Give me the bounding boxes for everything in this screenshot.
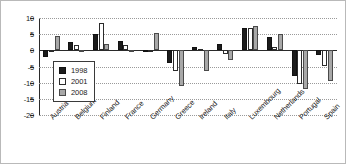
bar-germany-1998 <box>143 50 148 52</box>
bar-italy-1998 <box>217 44 222 50</box>
bar-chart-figure: 1050-5-10-15-20 AustriaBelgiumFinlandFra… <box>0 0 346 164</box>
bar-greece-2001 <box>173 50 178 71</box>
bar-group <box>238 18 263 115</box>
bar-group <box>138 18 163 115</box>
bar-belgium-1998 <box>68 42 73 50</box>
bar-luxembourg-2008 <box>253 26 258 50</box>
bar-belgium-2008 <box>79 50 84 52</box>
bar-ireland-2001 <box>198 49 203 51</box>
bar-portugal-1998 <box>292 50 297 76</box>
bar-finland-2001 <box>99 23 104 50</box>
bar-finland-1998 <box>93 34 98 50</box>
bar-finland-2008 <box>104 44 109 50</box>
bar-luxembourg-1998 <box>242 28 247 51</box>
bar-france-2001 <box>123 45 128 50</box>
bar-netherlands-2008 <box>278 34 283 50</box>
bar-austria-1998 <box>43 50 48 56</box>
bar-portugal-2001 <box>297 50 302 84</box>
bar-austria-2008 <box>55 36 60 51</box>
bar-france-2008 <box>129 50 134 52</box>
y-axis-labels: 1050-5-10-15-20 <box>1 18 34 115</box>
y-axis-tick-mark <box>30 67 34 68</box>
bar-luxembourg-2001 <box>248 28 253 51</box>
legend-swatch-2001-icon <box>59 78 66 85</box>
bar-ireland-2008 <box>204 50 209 71</box>
bar-italy-2008 <box>228 50 233 60</box>
bar-greece-1998 <box>167 50 172 63</box>
bar-greece-2008 <box>179 50 184 86</box>
y-axis-tick-mark <box>30 115 34 116</box>
y-axis-tick-mark <box>30 99 34 100</box>
legend-label: 2008 <box>71 88 87 97</box>
legend-item: 2001 <box>59 76 87 87</box>
bar-ireland-1998 <box>192 47 197 50</box>
legend-swatch-1998-icon <box>59 67 66 74</box>
bar-group <box>213 18 238 115</box>
bar-portugal-2008 <box>303 50 308 89</box>
bar-spain-2008 <box>328 50 333 81</box>
bar-france-1998 <box>118 41 123 51</box>
y-axis-tick-mark <box>30 34 34 35</box>
bar-belgium-2001 <box>74 45 79 50</box>
y-axis-tick-mark <box>30 50 34 51</box>
bar-germany-2001 <box>148 50 153 52</box>
legend-swatch-2008-icon <box>59 89 66 96</box>
legend-item: 2008 <box>59 87 87 98</box>
bar-netherlands-1998 <box>267 37 272 50</box>
y-axis-tick-mark <box>30 18 34 19</box>
bar-spain-1998 <box>316 50 321 55</box>
chart-legend: 1998 2001 2008 <box>53 61 95 102</box>
bar-austria-2001 <box>49 50 54 52</box>
legend-label: 1998 <box>71 66 87 75</box>
bar-germany-2008 <box>154 33 159 51</box>
bar-italy-2001 <box>223 50 228 53</box>
y-axis-tick-mark <box>30 83 34 84</box>
legend-label: 2001 <box>71 77 87 86</box>
bar-netherlands-2001 <box>272 47 277 50</box>
legend-item: 1998 <box>59 65 87 76</box>
x-axis-labels: AustriaBelgiumFinlandFranceGermanyGreece… <box>39 115 337 164</box>
bar-spain-2001 <box>322 50 327 66</box>
